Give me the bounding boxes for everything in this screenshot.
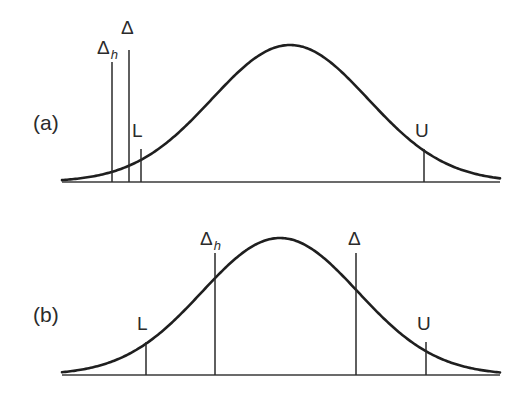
marker-label-upper-bound-b: U [417,313,431,334]
marker-delta-b: Δ [348,228,361,375]
gaussian-curve-a [62,45,500,180]
marker-delta-a: Δ [121,17,134,182]
marker-label-delta-b: Δ [348,228,361,249]
marker-label-upper-bound-a: U [415,120,429,141]
marker-delta-h-a: Δh [97,37,118,182]
marker-upper-bound-b: U [417,313,431,375]
figure-canvas: Δh Δ L U (a) L [0,0,519,393]
marker-lower-bound-b: L [137,313,148,375]
marker-label-delta-h-b: Δh [200,228,221,253]
panel-label-a: (a) [33,111,59,134]
panel-a: Δh Δ L U (a) [33,17,500,182]
marker-label-lower-bound-a: L [132,120,143,141]
marker-lower-bound-a: L [132,120,143,182]
gaussian-curve-b [62,238,500,372]
panel-b: L Δh Δ U (b) [33,228,500,375]
marker-label-delta-a: Δ [121,17,134,38]
figure-root: Δh Δ L U (a) L [0,0,519,393]
panel-label-b: (b) [33,303,59,326]
marker-delta-h-b: Δh [200,228,221,375]
marker-label-delta-h-a: Δh [97,37,118,62]
marker-label-lower-bound-b: L [137,313,148,334]
